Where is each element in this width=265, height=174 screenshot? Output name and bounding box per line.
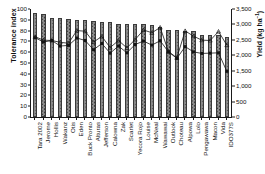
x-axis-tick-label: Otis — [70, 122, 76, 133]
y-axis-right-tick-mark — [232, 9, 235, 10]
x-axis-tick-mark — [109, 118, 110, 120]
marker-square — [200, 52, 203, 55]
marker-square — [42, 41, 45, 44]
x-axis-tick-label: Outlook — [170, 122, 176, 143]
y-axis-right-title: Yield (kg ha−1) — [255, 0, 263, 71]
marker-square — [175, 57, 178, 60]
y-axis-left-tick-label: 100 — [17, 6, 27, 12]
x-axis-tick-mark — [226, 118, 227, 120]
x-axis-tick-label: Louise — [145, 122, 151, 140]
yield-series-triangle — [33, 26, 229, 60]
marker-square — [225, 70, 228, 73]
marker-square — [209, 52, 212, 55]
y-axis-left-tick-label: 40 — [20, 71, 27, 77]
y-axis-right-tick-label: 3,000 — [236, 21, 251, 27]
marker-square — [92, 48, 95, 51]
x-axis-tick-mark — [209, 118, 210, 120]
x-axis-labels: Tara 2002JeromeHollisWakanzOtisEdenBuck … — [30, 119, 232, 174]
x-axis-tick-label: Vida — [220, 122, 226, 134]
y-axis-left-tick-label: 30 — [20, 82, 27, 88]
x-axis-tick-mark — [43, 118, 44, 120]
chart-figure: Tolerance index 0102030405060708090100 0… — [0, 0, 265, 174]
x-axis-tick-mark — [76, 118, 77, 120]
marker-square — [184, 45, 187, 48]
x-axis-tick-mark — [84, 118, 85, 120]
x-axis-tick-mark — [34, 118, 35, 120]
x-axis-tick-label: McNeal — [153, 122, 159, 143]
x-axis-tick-mark — [201, 118, 202, 120]
x-axis-tick-label: Buck Pronto — [87, 122, 93, 156]
x-axis-tick-mark — [101, 118, 102, 120]
x-axis-tick-label: Tara 2002 — [37, 122, 43, 150]
x-axis-tick-label: Hollis — [53, 122, 59, 137]
y-axis-left-tick-label: 0 — [24, 114, 27, 120]
y-axis-right-tick-mark — [232, 117, 235, 118]
plot-area — [30, 9, 232, 118]
y-axis-right-tick-mark — [232, 24, 235, 25]
x-axis-tick-mark — [126, 118, 127, 120]
y-axis-right-tick-label: 1,000 — [236, 83, 251, 89]
y-axis-right-tick-label: 500 — [236, 99, 246, 105]
y-axis-right-tick-mark — [232, 86, 235, 87]
line-series-overlay — [31, 9, 231, 117]
y-axis-right-tick-label: 1,500 — [236, 68, 251, 74]
y-axis-left-tick-label: 60 — [20, 49, 27, 55]
x-axis-tick-mark — [184, 118, 185, 120]
marker-square — [84, 39, 87, 42]
y-axis-right-tick-label: 2,000 — [236, 52, 251, 58]
y-axis-left-tick-label: 80 — [20, 28, 27, 34]
x-axis-tick-mark — [143, 118, 144, 120]
marker-square — [134, 43, 137, 46]
x-axis-tick-label: Pengawawa — [203, 122, 209, 156]
x-axis-tick-label: IDO377S — [228, 122, 234, 147]
x-axis-tick-label: Scarlet — [128, 122, 134, 141]
y-axis-right-tick-mark — [232, 39, 235, 40]
x-axis-tick-label: Wakanz — [62, 122, 68, 144]
y-axis-right-tick-label: 0 — [236, 114, 239, 120]
y-axis-left-tick-label: 70 — [20, 38, 27, 44]
x-axis-tick-mark — [51, 118, 52, 120]
x-axis-tick-mark — [176, 118, 177, 120]
y-axis-right-tick-mark — [232, 101, 235, 102]
x-axis-tick-label: Alpowa — [187, 122, 193, 142]
y-axis-left-tick-label: 90 — [20, 17, 27, 23]
marker-square — [217, 51, 220, 54]
yield-series-square — [34, 36, 229, 73]
marker-square — [150, 44, 153, 47]
x-axis-tick-mark — [193, 118, 194, 120]
x-axis-tick-mark — [159, 118, 160, 120]
marker-square — [167, 50, 170, 53]
marker-square — [59, 45, 62, 48]
x-axis-tick-label: Zak — [120, 122, 126, 132]
x-axis-tick-mark — [68, 118, 69, 120]
x-axis-tick-label: Jerome — [45, 122, 51, 143]
x-axis-tick-label: Jefferson — [103, 122, 109, 147]
x-axis-tick-label: Choteau — [178, 122, 184, 145]
y-axis-left-tick-label: 20 — [20, 92, 27, 98]
x-axis-tick-mark — [93, 118, 94, 120]
x-axis-tick-label: Calowna — [112, 122, 118, 146]
marker-square — [125, 51, 128, 54]
marker-square — [75, 37, 78, 40]
x-axis-tick-mark — [151, 118, 152, 120]
x-axis-tick-mark — [218, 118, 219, 120]
marker-square — [159, 39, 162, 42]
marker-square — [109, 52, 112, 55]
x-axis-tick-mark — [168, 118, 169, 120]
x-axis-tick-label: Lolo — [195, 122, 201, 134]
marker-square — [34, 36, 37, 39]
x-axis-tick-mark — [118, 118, 119, 120]
x-axis-tick-mark — [59, 118, 60, 120]
marker-square — [117, 45, 120, 48]
x-axis-tick-mark — [134, 118, 135, 120]
y-axis-left-ticks: 0102030405060708090100 — [0, 9, 30, 118]
marker-square — [67, 44, 70, 47]
y-axis-left-tick-label: 50 — [20, 60, 27, 66]
x-axis-tick-label: Macon — [212, 122, 218, 141]
marker-square — [142, 40, 145, 43]
x-axis-tick-label: Yecora Rojo — [137, 122, 143, 155]
x-axis-tick-label: Wawawai — [162, 122, 168, 148]
marker-square — [100, 42, 103, 45]
marker-square — [50, 39, 53, 42]
marker-square — [192, 50, 195, 53]
